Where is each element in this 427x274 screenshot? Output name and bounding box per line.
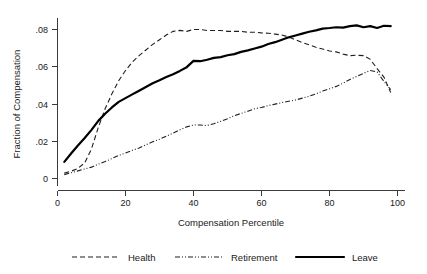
x-axis-title: Compensation Percentile (178, 217, 284, 228)
y-tick-label-0.02: .02 (35, 137, 48, 147)
x-tick-label-100: 100 (390, 198, 405, 208)
legend-label-health: Health (128, 252, 155, 263)
y-tick-label-0.04: .04 (35, 100, 48, 110)
legend-label-retirement: Retirement (231, 252, 278, 263)
x-tick-label-40: 40 (188, 198, 198, 208)
legend-label-leave: Leave (352, 252, 378, 263)
y-tick-label-0.06: .06 (35, 62, 48, 72)
y-tick-label-0.08: .08 (35, 25, 48, 35)
x-tick-label-0: 0 (55, 198, 60, 208)
x-tick-label-80: 80 (324, 198, 334, 208)
y-tick-label-0: 0 (43, 174, 48, 184)
figure-background (0, 0, 427, 274)
x-tick-label-60: 60 (256, 198, 266, 208)
chart-figure: .08 .06 .04 .02 0 0 20 40 60 80 100 Comp… (0, 0, 427, 274)
x-tick-label-20: 20 (120, 198, 130, 208)
y-axis-title: Fraction of Compensation (11, 50, 22, 159)
